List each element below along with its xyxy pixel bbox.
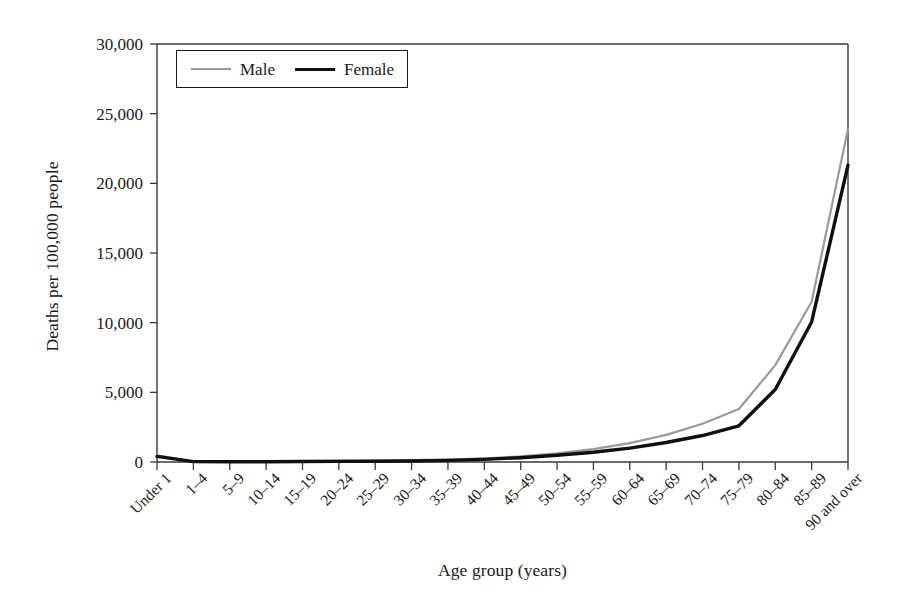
x-tick-label: 45–49 — [499, 470, 537, 508]
x-tick-label: 20–24 — [317, 470, 355, 508]
x-tick-label: 1–4 — [183, 470, 210, 497]
x-axis-title: Age group (years) — [157, 560, 848, 581]
x-tick-label: 60–64 — [608, 470, 646, 508]
x-tick-label: 65–69 — [645, 470, 683, 508]
x-tick-label: 35–39 — [427, 470, 465, 508]
x-tick-label: 30–34 — [390, 470, 428, 508]
legend-swatch-female-icon — [295, 68, 335, 71]
x-tick-label: 50–54 — [536, 470, 574, 508]
x-tick-label: 80–84 — [754, 470, 792, 508]
x-tick-label: 10–14 — [245, 470, 283, 508]
x-tick-label: 5–9 — [219, 470, 246, 497]
x-tick-label: Under 1 — [127, 470, 174, 517]
y-axis-title: Deaths per 100,000 people — [42, 127, 63, 387]
x-tick-label: 15–19 — [281, 470, 319, 508]
chart-figure: 05,00010,00015,00020,00025,00030,000 Und… — [0, 0, 900, 606]
x-tick-label: 25–29 — [354, 470, 392, 508]
legend-entry-male: Male — [191, 61, 275, 78]
x-tick-label: 70–74 — [681, 470, 719, 508]
legend-label-male: Male — [240, 61, 275, 78]
chart-legend: Male Female — [176, 50, 408, 88]
x-tick-label: 55–59 — [572, 470, 610, 508]
x-tick-label: 40–44 — [463, 470, 501, 508]
legend-swatch-male-icon — [191, 68, 231, 70]
legend-entry-female: Female — [295, 61, 394, 78]
x-tick-label: 75–79 — [717, 470, 755, 508]
legend-label-female: Female — [344, 61, 394, 78]
x-axis-tick-labels: Under 11–45–910–1415–1920–2425–2930–3435… — [0, 0, 900, 606]
